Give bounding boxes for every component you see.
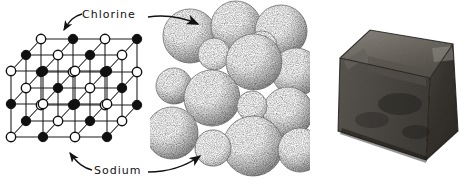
chlorine-right-leader <box>148 16 198 24</box>
chlorine-label: Chlorine <box>82 8 136 21</box>
nacl-structure-figure: Chlorine Sodium <box>0 0 466 187</box>
callout-overlay <box>0 0 466 187</box>
chlorine-left-leader <box>64 14 82 30</box>
sodium-left-leader <box>70 153 92 170</box>
sodium-label: Sodium <box>94 164 141 177</box>
sodium-right-leader <box>148 156 200 172</box>
